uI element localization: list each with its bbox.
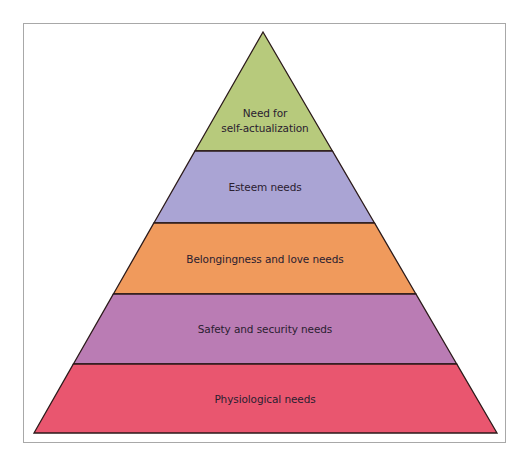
tier-label-belongingness: Belongingness and love needs [186,252,343,267]
tier-label-self-actualization: Need for self-actualization [221,106,308,136]
tier-label-safety: Safety and security needs [198,322,333,337]
tier-label-line2: self-actualization [221,121,308,136]
tier-label-esteem: Esteem needs [228,180,301,195]
pyramid-tiers [34,32,497,433]
tier-label-line1: Need for [221,106,308,121]
tier-label-physiological: Physiological needs [214,392,315,407]
